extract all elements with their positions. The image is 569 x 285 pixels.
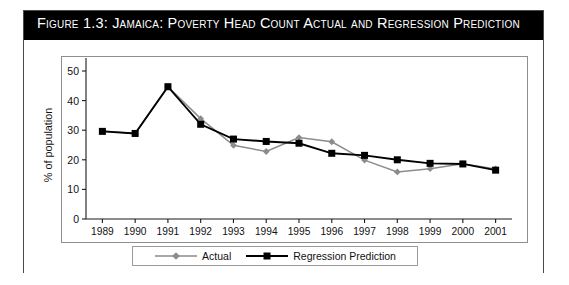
- series-line-actual: [102, 87, 495, 172]
- chart-legend: Actual Regression Prediction: [132, 246, 418, 266]
- data-point-regression-prediction: [459, 160, 466, 167]
- y-axis-tick-label: 10: [67, 183, 79, 195]
- y-axis-title: % of population: [42, 108, 54, 182]
- x-axis-tick-label: 1998: [386, 226, 409, 237]
- data-point-actual: [263, 148, 270, 155]
- data-point-regression-prediction: [492, 167, 499, 174]
- chart-svg: 01020304050 1989199019911992199319941995…: [24, 40, 545, 274]
- y-axis-tick-label: 20: [67, 154, 79, 166]
- y-axis-tick-label: 30: [67, 124, 79, 136]
- data-point-regression-prediction: [132, 130, 139, 137]
- y-axis-tick-label: 50: [67, 65, 79, 77]
- data-point-regression-prediction: [263, 138, 270, 145]
- x-axis-tick-label: 1990: [124, 226, 147, 237]
- legend-entry-actual: Actual: [154, 250, 231, 262]
- x-axis-tick-label: 1995: [288, 226, 311, 237]
- data-point-actual: [328, 138, 335, 145]
- y-axis-tick-label: 40: [67, 95, 79, 107]
- data-point-regression-prediction: [427, 160, 434, 167]
- x-axis-tick-label: 1989: [91, 226, 114, 237]
- data-point-regression-prediction: [328, 150, 335, 157]
- data-point-regression-prediction: [394, 156, 401, 163]
- data-point-actual: [394, 169, 401, 176]
- x-axis-tick-label: 2000: [452, 226, 475, 237]
- data-point-regression-prediction: [296, 140, 303, 147]
- plot-area: 01020304050 1989199019911992199319941995…: [24, 40, 543, 274]
- x-axis-tick-label: 2001: [484, 226, 507, 237]
- legend-marker-prediction-icon: [245, 250, 289, 262]
- figure-frame: Figure 1.3: Jamaica: Poverty Head Count …: [23, 10, 544, 273]
- y-axis-title-group: % of population: [42, 108, 54, 182]
- x-axis-tick-label: 1999: [419, 226, 442, 237]
- x-axis-group: 1989199019911992199319941995199619971998…: [86, 219, 512, 237]
- data-point-regression-prediction: [164, 83, 171, 90]
- y-axis-tick-label: 0: [73, 213, 79, 225]
- x-axis-tick-label: 1992: [189, 226, 212, 237]
- x-axis-tick-label: 1997: [353, 226, 376, 237]
- y-axis-group: 01020304050: [67, 58, 86, 225]
- x-axis-tick-label: 1994: [255, 226, 278, 237]
- series-line-regression-prediction: [102, 87, 495, 170]
- data-point-regression-prediction: [99, 128, 106, 135]
- series-group: [99, 83, 499, 175]
- legend-label-prediction: Regression Prediction: [293, 250, 396, 262]
- legend-entry-prediction: Regression Prediction: [245, 250, 396, 262]
- figure-title: Figure 1.3: Jamaica: Poverty Head Count …: [37, 15, 520, 31]
- data-point-regression-prediction: [361, 152, 368, 159]
- data-point-regression-prediction: [197, 121, 204, 128]
- data-point-regression-prediction: [230, 136, 237, 143]
- x-axis-tick-label: 1996: [320, 226, 343, 237]
- figure-title-bar: Figure 1.3: Jamaica: Poverty Head Count …: [24, 11, 543, 40]
- x-axis-tick-label: 1993: [222, 226, 245, 237]
- legend-label-actual: Actual: [202, 250, 231, 262]
- legend-marker-actual-icon: [154, 250, 198, 262]
- x-axis-tick-label: 1991: [157, 226, 180, 237]
